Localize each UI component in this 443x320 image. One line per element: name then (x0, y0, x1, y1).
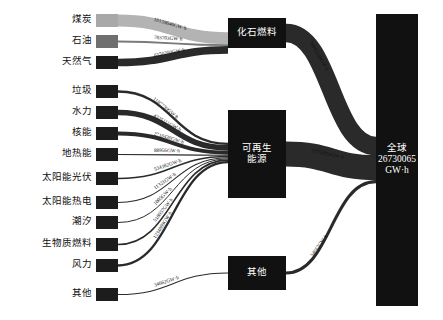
sankey-link-to-total (286, 33, 376, 146)
sankey-link (118, 155, 228, 156)
node-label-global-line3: GW·h (376, 165, 418, 176)
source-label-solar_th: 太阳能热电 (42, 197, 92, 207)
source-label-solar_pv: 太阳能光伏 (42, 173, 92, 183)
source-label-other_src: 其他 (72, 289, 92, 299)
source-label-waste: 垃圾 (72, 86, 92, 96)
flow-value-label: 88956GW·h (154, 147, 180, 153)
sankey-node-solar_pv (96, 172, 118, 185)
source-label-tidal: 潮汐 (72, 217, 92, 227)
sankey-link-to-total (286, 182, 376, 273)
sankey-node-gas (96, 56, 118, 69)
source-label-geo: 地热能 (62, 149, 92, 159)
node-label-global: 全球 26730065 GW·h (376, 143, 418, 176)
node-label-renewable-line1: 可再生 (228, 143, 286, 154)
source-label-oil: 石油 (72, 36, 92, 46)
sankey-node-tidal (96, 216, 118, 229)
source-label-biomass: 生物质燃料 (42, 239, 92, 249)
sankey-node-hydro (96, 106, 118, 119)
node-label-fossil: 化石燃料 (228, 27, 286, 38)
sankey-node-coal (96, 14, 118, 27)
sankey-node-waste (96, 85, 118, 98)
source-label-nuclear: 核能 (72, 128, 92, 138)
node-label-renewable: 可再生 能源 (228, 143, 286, 165)
node-label-other: 其他 (228, 267, 286, 278)
node-label-global-line1: 全球 (376, 143, 418, 154)
sankey-node-oil (96, 35, 118, 48)
node-label-global-line2: 26730065 (376, 154, 418, 165)
node-label-other-text: 其他 (247, 267, 267, 277)
node-label-renewable-line2: 能源 (228, 154, 286, 165)
source-label-wind: 风力 (72, 260, 92, 270)
sankey-node-other_src (96, 288, 118, 301)
source-label-hydro: 水力 (72, 107, 92, 117)
sankey-node-biomass (96, 238, 118, 251)
sankey-diagram: 煤炭石油天然气垃圾水力核能地热能太阳能光伏太阳能热电潮汐生物质燃料风力其他 10… (0, 0, 443, 320)
sankey-node-solar_th (96, 196, 118, 209)
sankey-node-wind (96, 259, 118, 272)
source-label-gas: 天然气 (62, 57, 92, 67)
source-label-coal: 煤炭 (72, 15, 92, 25)
sankey-node-geo (96, 148, 118, 161)
node-label-fossil-text: 化石燃料 (237, 27, 277, 37)
sankey-node-nuclear (96, 127, 118, 140)
